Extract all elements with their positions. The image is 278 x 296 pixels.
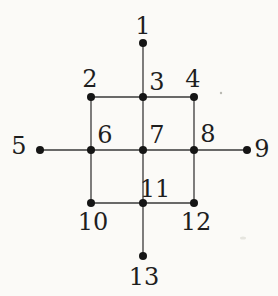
scan-speck-2 — [240, 237, 246, 240]
node-label-11: 11 — [140, 175, 171, 203]
node-label-7: 7 — [149, 121, 164, 149]
node-dot-1 — [139, 39, 147, 47]
node-label-1: 1 — [135, 12, 150, 40]
node-label-5: 5 — [11, 132, 26, 160]
node-dot-10 — [87, 199, 95, 207]
graph-figure: 12345678910111213 — [0, 0, 278, 296]
node-dot-3 — [139, 93, 147, 101]
node-label-3: 3 — [149, 68, 164, 96]
node-label-13: 13 — [129, 263, 160, 291]
node-dot-2 — [87, 93, 95, 101]
node-dot-7 — [139, 146, 147, 154]
node-label-10: 10 — [78, 208, 109, 236]
node-dot-5 — [36, 146, 44, 154]
node-dot-13 — [139, 252, 147, 260]
node-label-12: 12 — [181, 208, 212, 236]
node-dot-9 — [243, 146, 251, 154]
node-label-4: 4 — [185, 65, 200, 93]
graph-canvas: 12345678910111213 — [0, 0, 278, 296]
scan-speck-1 — [220, 92, 222, 94]
node-dot-8 — [190, 146, 198, 154]
node-label-2: 2 — [82, 65, 97, 93]
node-dot-6 — [87, 146, 95, 154]
node-label-9: 9 — [254, 135, 269, 163]
node-dot-12 — [190, 199, 198, 207]
node-label-6: 6 — [97, 121, 112, 149]
node-label-8: 8 — [200, 120, 215, 148]
node-dot-4 — [190, 93, 198, 101]
